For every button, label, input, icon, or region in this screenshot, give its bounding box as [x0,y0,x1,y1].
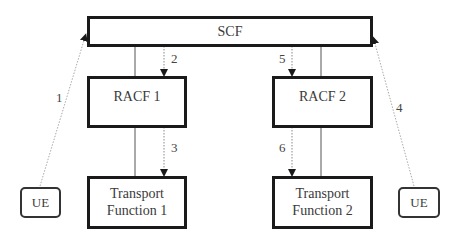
transport-function-2-box: Transport Function 2 [272,176,373,229]
scf-label: SCF [218,23,243,40]
transport-function-1-line1: Transport [107,185,167,202]
racf2-box: RACF 2 [272,76,373,128]
ue-right-box: UE [398,187,440,218]
racf1-box: RACF 1 [87,76,187,128]
step-label-5: 5 [279,52,286,66]
step-label-2: 2 [171,52,178,66]
transport-function-1-box: Transport Function 1 [87,176,187,229]
step-label-6: 6 [279,141,286,155]
transport-function-2-line1: Transport [292,185,352,202]
arrow-step-4 [374,40,414,186]
ue-left-label: UE [32,194,49,211]
step-label-4: 4 [396,101,403,115]
arrow-step-1 [40,37,85,186]
transport-function-2-label: Transport Function 2 [292,185,352,219]
step-label-3: 3 [171,141,178,155]
ue-left-box: UE [20,187,61,218]
transport-function-1-label: Transport Function 1 [107,185,167,219]
racf1-label: RACF 1 [113,88,160,105]
scf-box: SCF [87,16,373,47]
transport-function-1-line2: Function 1 [107,202,167,219]
diagram-canvas: SCF RACF 1 RACF 2 Transport Function 1 T… [0,0,459,242]
racf2-label: RACF 2 [299,88,346,105]
ue-right-label: UE [410,194,427,211]
transport-function-2-line2: Function 2 [292,202,352,219]
step-label-1: 1 [56,91,63,105]
